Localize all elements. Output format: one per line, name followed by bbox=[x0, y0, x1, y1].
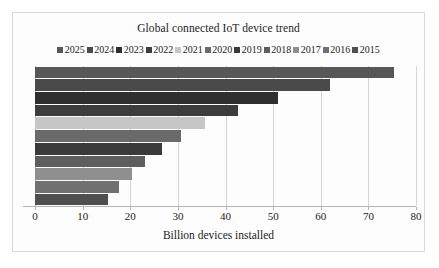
legend-item-2020[interactable]: 2020 bbox=[205, 44, 233, 55]
legend-swatch-icon bbox=[234, 47, 240, 53]
x-tick-label: 30 bbox=[172, 210, 183, 222]
legend-item-2025[interactable]: 2025 bbox=[57, 44, 85, 55]
chart-title: Global connected IoT device trend bbox=[13, 22, 424, 34]
bar-2016[interactable] bbox=[35, 181, 119, 193]
x-axis-title: Billion devices installed bbox=[13, 229, 424, 241]
legend-swatch-icon bbox=[57, 47, 63, 53]
legend-item-2015[interactable]: 2015 bbox=[352, 44, 380, 55]
chart-container: Global connected IoT device trend 202520… bbox=[12, 12, 425, 252]
bar-2021[interactable] bbox=[35, 117, 205, 129]
legend-swatch-icon bbox=[264, 47, 270, 53]
x-tick-label: 0 bbox=[32, 210, 38, 222]
legend-item-label: 2019 bbox=[242, 44, 262, 55]
legend-swatch-icon bbox=[323, 47, 329, 53]
bar-series bbox=[23, 66, 416, 206]
legend-item-label: 2015 bbox=[360, 44, 380, 55]
x-axis-ticks: 01020304050607080 bbox=[23, 207, 416, 223]
x-tick-label: 10 bbox=[77, 210, 88, 222]
legend-item-2017[interactable]: 2017 bbox=[293, 44, 321, 55]
legend-swatch-icon bbox=[146, 47, 152, 53]
bar-2019[interactable] bbox=[35, 143, 162, 155]
legend-swatch-icon bbox=[87, 47, 93, 53]
legend-item-label: 2021 bbox=[183, 44, 203, 55]
legend-swatch-icon bbox=[175, 47, 181, 53]
legend-item-2023[interactable]: 2023 bbox=[116, 44, 144, 55]
legend-item-label: 2025 bbox=[65, 44, 85, 55]
bar-2017[interactable] bbox=[35, 168, 132, 180]
legend-swatch-icon bbox=[116, 47, 122, 53]
legend-swatch-icon bbox=[293, 47, 299, 53]
x-tick-label: 80 bbox=[411, 210, 422, 222]
x-tick-label: 20 bbox=[125, 210, 136, 222]
x-tick-label: 50 bbox=[268, 210, 279, 222]
legend-item-2024[interactable]: 2024 bbox=[87, 44, 115, 55]
legend-item-2019[interactable]: 2019 bbox=[234, 44, 262, 55]
legend-item-label: 2017 bbox=[301, 44, 321, 55]
x-tick-label: 60 bbox=[315, 210, 326, 222]
legend-item-2016[interactable]: 2016 bbox=[323, 44, 351, 55]
gridline-80 bbox=[416, 66, 417, 206]
plot-area bbox=[23, 66, 416, 206]
bar-2024[interactable] bbox=[35, 79, 330, 91]
bar-2020[interactable] bbox=[35, 130, 181, 142]
bar-2018[interactable] bbox=[35, 156, 145, 168]
legend-item-2018[interactable]: 2018 bbox=[264, 44, 292, 55]
legend-item-label: 2022 bbox=[153, 44, 173, 55]
bar-2022[interactable] bbox=[35, 105, 238, 117]
legend-item-label: 2018 bbox=[271, 44, 291, 55]
legend-item-label: 2016 bbox=[330, 44, 350, 55]
bar-2023[interactable] bbox=[35, 92, 278, 104]
x-tick-label: 40 bbox=[220, 210, 231, 222]
x-tick-label: 70 bbox=[363, 210, 374, 222]
legend-item-label: 2023 bbox=[124, 44, 144, 55]
chart-legend: 2025202420232022202120202019201820172016… bbox=[13, 44, 424, 55]
legend-item-label: 2020 bbox=[212, 44, 232, 55]
legend-swatch-icon bbox=[352, 47, 358, 53]
legend-item-2021[interactable]: 2021 bbox=[175, 44, 203, 55]
legend-item-2022[interactable]: 2022 bbox=[146, 44, 174, 55]
bar-2025[interactable] bbox=[35, 67, 394, 79]
legend-swatch-icon bbox=[205, 47, 211, 53]
bar-2015[interactable] bbox=[35, 194, 108, 206]
legend-item-label: 2024 bbox=[94, 44, 114, 55]
